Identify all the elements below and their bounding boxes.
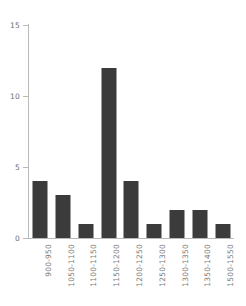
y-tick-mark: [23, 167, 28, 168]
x-tick-label: 1250-1300: [158, 244, 167, 287]
x-tick-label: 1500-1550: [226, 244, 235, 287]
bar-slot: [120, 25, 143, 238]
plot-area: [29, 25, 234, 238]
bar[interactable]: [192, 210, 207, 238]
bar-slot: [211, 25, 234, 238]
x-tick-label: 1150-1200: [112, 244, 121, 287]
x-tick-label: 1350-1400: [203, 244, 212, 287]
x-tick-label: 900-950: [44, 244, 53, 277]
bar[interactable]: [215, 224, 230, 238]
x-tick-label: 1050-1100: [67, 244, 76, 287]
bar[interactable]: [33, 181, 48, 238]
y-tick-label: 5: [15, 163, 20, 172]
x-axis-line: [28, 238, 234, 239]
bar[interactable]: [101, 68, 116, 238]
bar-slot: [97, 25, 120, 238]
bar[interactable]: [124, 181, 139, 238]
bar-slot: [52, 25, 75, 238]
y-tick-label: 15: [10, 21, 20, 30]
bar-slot: [188, 25, 211, 238]
x-tick-label: 1100-1150: [89, 244, 98, 287]
bar-slot: [29, 25, 52, 238]
x-tick-label: 1200-1250: [135, 244, 144, 287]
bar-slot: [75, 25, 98, 238]
x-tick-label: 1300-1350: [181, 244, 190, 287]
y-tick-mark: [23, 25, 28, 26]
y-tick-mark: [23, 96, 28, 97]
y-tick-label: 0: [15, 234, 20, 243]
bar[interactable]: [56, 195, 71, 238]
bar[interactable]: [147, 224, 162, 238]
bar[interactable]: [78, 224, 93, 238]
y-tick-mark: [23, 238, 28, 239]
bar-slot: [166, 25, 189, 238]
y-tick-label: 10: [10, 92, 20, 101]
bar-slot: [143, 25, 166, 238]
bar-chart: 051015 900-9501050-11001100-11501150-120…: [0, 0, 246, 306]
bar[interactable]: [170, 210, 185, 238]
